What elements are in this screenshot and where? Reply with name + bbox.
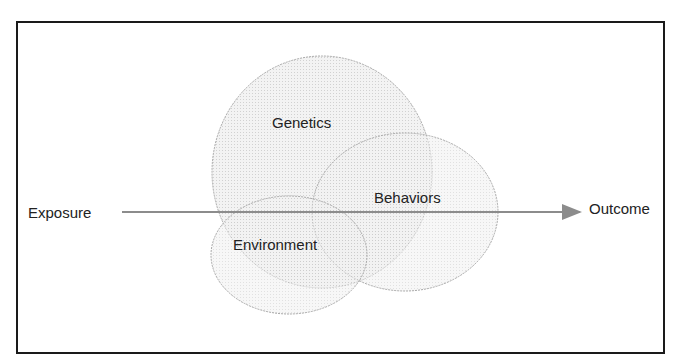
environment-circle <box>211 196 367 314</box>
outcome-label: Outcome <box>589 201 650 216</box>
genetics-label: Genetics <box>272 115 331 130</box>
venn-diagram <box>0 0 694 363</box>
behaviors-label: Behaviors <box>374 190 441 205</box>
environment-label: Environment <box>233 237 317 252</box>
exposure-label: Exposure <box>28 205 91 220</box>
